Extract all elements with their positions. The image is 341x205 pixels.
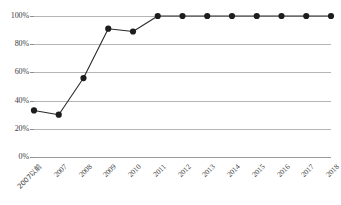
data-point-marker xyxy=(130,28,136,34)
data-point-marker xyxy=(31,107,37,113)
data-point-marker xyxy=(229,13,235,19)
data-point-marker xyxy=(328,13,334,19)
data-point-marker xyxy=(80,75,86,81)
series-line xyxy=(34,16,331,115)
data-point-marker xyxy=(56,112,62,118)
data-point-marker xyxy=(303,13,309,19)
data-point-marker xyxy=(254,13,260,19)
data-point-marker xyxy=(105,26,111,32)
data-point-marker xyxy=(278,13,284,19)
data-point-marker xyxy=(179,13,185,19)
data-point-marker xyxy=(204,13,210,19)
data-point-marker xyxy=(155,13,161,19)
